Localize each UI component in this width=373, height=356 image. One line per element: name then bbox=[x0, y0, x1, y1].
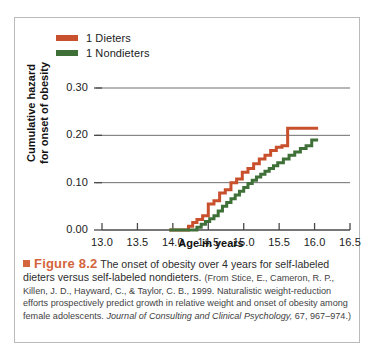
legend-label-nondieters: 1 Nondieters bbox=[86, 47, 150, 59]
x-axis-title: Age in years bbox=[87, 237, 335, 249]
y-axis-title-line1: Cumulative hazard bbox=[25, 64, 37, 162]
legend-swatch-dieters bbox=[56, 35, 78, 41]
legend-item-dieters: 1 Dieters bbox=[56, 30, 150, 45]
square-bullet-icon bbox=[23, 260, 30, 267]
y-axis-title: Cumulative hazard for onset of obesity bbox=[25, 43, 51, 183]
figure-number: Figure 8.2 bbox=[34, 256, 97, 271]
chart-plot-area: 1 Dieters 1 Nondieters Cumulative hazard… bbox=[15, 18, 361, 258]
y-tick-label: 0.20 bbox=[54, 128, 88, 140]
figure-caption: Figure 8.2 The onset of obesity over 4 y… bbox=[23, 258, 353, 322]
series-line-nondieters bbox=[169, 140, 318, 230]
legend-label-dieters: 1 Dieters bbox=[86, 32, 131, 44]
y-tick-label: 0.30 bbox=[54, 81, 88, 93]
legend-swatch-nondieters bbox=[56, 50, 78, 56]
figure-caption-source-journal: Journal of Consulting and Clinical Psych… bbox=[106, 311, 292, 321]
y-axis-title-line2: for onset of obesity bbox=[38, 62, 50, 164]
figure-card: 1 Dieters 1 Nondieters Cumulative hazard… bbox=[14, 17, 360, 343]
series-line-dieters bbox=[169, 128, 318, 230]
x-tick-label: 16.5 bbox=[333, 236, 367, 248]
legend-item-nondieters: 1 Nondieters bbox=[56, 45, 150, 60]
y-tick-label: 0.00 bbox=[54, 223, 88, 235]
figure-caption-source-close: 67, 967–974.) bbox=[292, 311, 351, 321]
chart-legend: 1 Dieters 1 Nondieters bbox=[56, 30, 150, 60]
y-tick-label: 0.10 bbox=[54, 176, 88, 188]
